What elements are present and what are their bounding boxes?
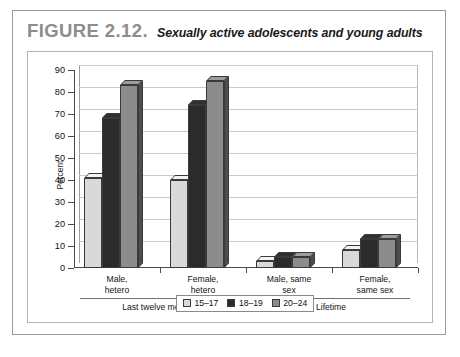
y-tick-label: 50 <box>55 153 65 163</box>
y-tick-label: 0 <box>60 263 65 273</box>
bar <box>170 180 188 268</box>
y-tick-label: 90 <box>55 65 65 75</box>
y-tick <box>68 114 74 115</box>
category-label-line: hetero <box>74 285 160 296</box>
category-label: Male, samesex <box>246 274 332 295</box>
bar-face <box>206 81 224 268</box>
bar-face <box>342 250 360 268</box>
bar-face <box>292 257 310 268</box>
bar-face <box>274 257 292 268</box>
bar <box>256 261 274 268</box>
legend-item[interactable]: 20–24 <box>272 298 307 308</box>
y-tick-label: 20 <box>55 219 65 229</box>
bar-face <box>188 105 206 268</box>
category-label-line: Male, <box>74 274 160 285</box>
y-tick-label: 80 <box>55 87 65 97</box>
bar-face <box>120 85 138 268</box>
figure-header: FIGURE 2.12. Sexually active adolescents… <box>27 20 437 46</box>
legend-swatch-2 <box>227 299 235 307</box>
y-tick <box>68 268 74 269</box>
x-tick <box>418 268 419 273</box>
bar-face <box>378 239 396 268</box>
legend-swatch-3 <box>272 299 280 307</box>
bar-side <box>224 76 229 268</box>
y-tick <box>68 224 74 225</box>
bar-side <box>396 234 401 268</box>
figure-title: Sexually active adolescents and young ad… <box>157 26 423 40</box>
bar <box>292 257 310 268</box>
bar <box>378 239 396 268</box>
bar-face <box>256 261 274 268</box>
category-label: Male,hetero <box>74 274 160 295</box>
y-tick <box>68 70 74 71</box>
category-label-line: sex <box>246 285 332 296</box>
category-label-line: Female, <box>332 274 418 285</box>
bar <box>102 118 120 268</box>
category-label: Female,hetero <box>160 274 246 295</box>
figure-box: FIGURE 2.12. Sexually active adolescents… <box>12 10 446 335</box>
chart-legend[interactable]: 15–17 18–19 20–24 <box>176 295 314 312</box>
y-tick <box>68 202 74 203</box>
legend-item[interactable]: 18–19 <box>227 298 262 308</box>
chart-plot-area: Percent 0102030405060708090 Male,heteroF… <box>28 52 434 324</box>
bar-face <box>102 118 120 268</box>
legend-item[interactable]: 15–17 <box>183 298 218 308</box>
gridline <box>79 65 418 66</box>
y-tick-label: 10 <box>55 241 65 251</box>
y-tick <box>68 246 74 247</box>
category-label-line: same sex <box>332 285 418 296</box>
legend-label-1: 15–17 <box>195 298 219 308</box>
bar-side <box>138 80 143 268</box>
category-label-line: hetero <box>160 285 246 296</box>
y-tick <box>68 180 74 181</box>
y-tick <box>68 136 74 137</box>
x-tick <box>332 268 333 273</box>
x-tick <box>160 268 161 273</box>
bar <box>274 257 292 268</box>
y-tick <box>68 92 74 93</box>
y-tick-label: 30 <box>55 197 65 207</box>
bar <box>206 81 224 268</box>
category-label: Female,same sex <box>332 274 418 295</box>
legend-swatch-1 <box>183 299 191 307</box>
bar-face <box>360 239 378 268</box>
plot-canvas: 0102030405060708090 <box>74 70 418 268</box>
bar <box>120 85 138 268</box>
y-tick-label: 40 <box>55 175 65 185</box>
y-tick <box>68 158 74 159</box>
x-tick <box>246 268 247 273</box>
y-tick-label: 60 <box>55 131 65 141</box>
bar <box>188 105 206 268</box>
category-label-line: Female, <box>160 274 246 285</box>
source-line-cropped <box>14 341 174 349</box>
y-tick-label: 70 <box>55 109 65 119</box>
bar-face <box>84 178 102 268</box>
bar <box>360 239 378 268</box>
legend-label-3: 20–24 <box>283 298 307 308</box>
category-label-line: Male, same <box>246 274 332 285</box>
bar-face <box>170 180 188 268</box>
figure-page: FIGURE 2.12. Sexually active adolescents… <box>0 0 460 357</box>
bar <box>342 250 360 268</box>
figure-number: FIGURE 2.12. <box>27 20 148 42</box>
chart-frame: Percent 0102030405060708090 Male,heteroF… <box>27 51 433 323</box>
bar <box>84 178 102 268</box>
legend-label-2: 18–19 <box>239 298 263 308</box>
